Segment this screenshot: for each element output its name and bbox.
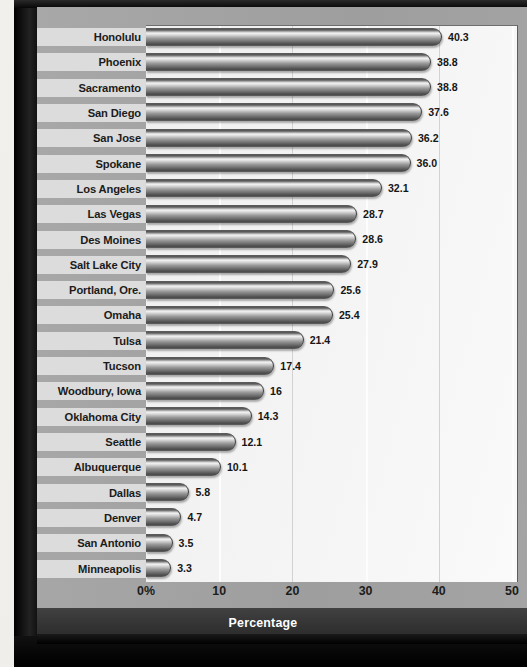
bar-row: 10.1 bbox=[146, 455, 518, 480]
bar-value-label: 17.4 bbox=[280, 358, 301, 374]
category-label: Seattle bbox=[37, 433, 141, 451]
bar[interactable] bbox=[146, 281, 334, 299]
bar-row: 38.8 bbox=[146, 50, 518, 75]
category-label: Salt Lake City bbox=[37, 256, 141, 274]
bar-row: 3.3 bbox=[146, 557, 518, 582]
bar[interactable] bbox=[146, 205, 357, 223]
bars-layer: 40.338.838.837.636.236.032.128.728.627.9… bbox=[146, 25, 518, 582]
bar[interactable] bbox=[146, 534, 173, 552]
category-label: San Antonio bbox=[37, 534, 141, 552]
bar-row: 25.6 bbox=[146, 278, 518, 303]
category-label: Minneapolis bbox=[37, 560, 141, 578]
bar-value-label: 27.9 bbox=[357, 256, 378, 272]
bar[interactable] bbox=[146, 357, 274, 375]
bar-row: 28.6 bbox=[146, 228, 518, 253]
bar[interactable] bbox=[146, 559, 171, 577]
bar-row: 21.4 bbox=[146, 329, 518, 354]
bar-value-label: 21.4 bbox=[310, 332, 331, 348]
x-tick-50: 50 bbox=[505, 584, 519, 598]
bar-row: 32.1 bbox=[146, 177, 518, 202]
category-label: San Diego bbox=[37, 104, 141, 122]
category-label: Des Moines bbox=[37, 231, 141, 249]
bar-value-label: 38.8 bbox=[437, 79, 458, 95]
bar-row: 40.3 bbox=[146, 25, 518, 50]
bar-row: 17.4 bbox=[146, 354, 518, 379]
bar-row: 14.3 bbox=[146, 405, 518, 430]
category-label: Dallas bbox=[37, 484, 141, 502]
bar-value-label: 3.5 bbox=[179, 535, 194, 551]
frame-footer-shadow bbox=[37, 634, 527, 644]
x-tick-40: 40 bbox=[432, 584, 446, 598]
category-label: Spokane bbox=[37, 155, 141, 173]
category-label: Albuquerque bbox=[37, 458, 141, 476]
bar[interactable] bbox=[146, 483, 189, 501]
bar-value-label: 16 bbox=[270, 383, 282, 399]
x-tick-20: 20 bbox=[285, 584, 299, 598]
bar-value-label: 36.0 bbox=[417, 155, 438, 171]
category-label: Omaha bbox=[37, 306, 141, 324]
bar[interactable] bbox=[146, 382, 264, 400]
bar[interactable] bbox=[146, 154, 411, 172]
bar[interactable] bbox=[146, 230, 356, 248]
bar[interactable] bbox=[146, 103, 422, 121]
bar-value-label: 25.4 bbox=[339, 307, 360, 323]
x-axis: 0%1020304050 bbox=[146, 582, 527, 608]
bar[interactable] bbox=[146, 306, 333, 324]
category-label: San Jose bbox=[37, 129, 141, 147]
x-tick-10: 10 bbox=[212, 584, 226, 598]
bar-row: 25.4 bbox=[146, 303, 518, 328]
bar[interactable] bbox=[146, 78, 431, 96]
bar-value-label: 38.8 bbox=[437, 54, 458, 70]
bar-row: 37.6 bbox=[146, 101, 518, 126]
category-label: Los Angeles bbox=[37, 180, 141, 198]
bar-value-label: 40.3 bbox=[448, 29, 469, 45]
bar-row: 36.0 bbox=[146, 152, 518, 177]
bar-value-label: 37.6 bbox=[428, 104, 449, 120]
bar-value-label: 32.1 bbox=[388, 180, 409, 196]
bar-value-label: 10.1 bbox=[227, 459, 248, 475]
category-label: Tulsa bbox=[37, 332, 141, 350]
bar-value-label: 14.3 bbox=[258, 408, 279, 424]
category-label: Las Vegas bbox=[37, 205, 141, 223]
x-tick-0: 0% bbox=[137, 584, 155, 598]
category-label: Denver bbox=[37, 509, 141, 527]
bar-row: 36.2 bbox=[146, 126, 518, 151]
bar-row: 5.8 bbox=[146, 481, 518, 506]
chart-screenshot: HonoluluPhoenixSacramentoSan DiegoSan Jo… bbox=[0, 0, 527, 667]
chart-panel: HonoluluPhoenixSacramentoSan DiegoSan Jo… bbox=[37, 7, 527, 608]
category-label: Tucson bbox=[37, 357, 141, 375]
x-tick-30: 30 bbox=[359, 584, 373, 598]
bar-value-label: 12.1 bbox=[242, 434, 263, 450]
category-label: Oklahoma City bbox=[37, 408, 141, 426]
bar-row: 38.8 bbox=[146, 76, 518, 101]
bar-row: 16 bbox=[146, 379, 518, 404]
bar-value-label: 4.7 bbox=[187, 509, 202, 525]
bar[interactable] bbox=[146, 458, 221, 476]
bar-value-label: 25.6 bbox=[340, 282, 361, 298]
bar-row: 12.1 bbox=[146, 430, 518, 455]
bar[interactable] bbox=[146, 28, 442, 46]
category-label: Sacramento bbox=[37, 79, 141, 97]
bar[interactable] bbox=[146, 331, 304, 349]
bar-value-label: 28.6 bbox=[362, 231, 383, 247]
category-label: Phoenix bbox=[37, 53, 141, 71]
bar[interactable] bbox=[146, 508, 181, 526]
bar[interactable] bbox=[146, 433, 236, 451]
bar[interactable] bbox=[146, 255, 351, 273]
bar-row: 28.7 bbox=[146, 202, 518, 227]
bar[interactable] bbox=[146, 53, 431, 71]
category-label: Woodbury, Iowa bbox=[37, 382, 141, 400]
bar-row: 3.5 bbox=[146, 531, 518, 556]
bar[interactable] bbox=[146, 179, 382, 197]
category-label: Portland, Ore. bbox=[37, 281, 141, 299]
bar[interactable] bbox=[146, 129, 412, 147]
category-label: Honolulu bbox=[37, 28, 141, 46]
bar-row: 4.7 bbox=[146, 506, 518, 531]
bar-row: 27.9 bbox=[146, 253, 518, 278]
bar-value-label: 36.2 bbox=[418, 130, 439, 146]
bar[interactable] bbox=[146, 407, 252, 425]
bar-value-label: 5.8 bbox=[195, 484, 210, 500]
bar-value-label: 3.3 bbox=[177, 560, 192, 576]
bar-value-label: 28.7 bbox=[363, 206, 384, 222]
